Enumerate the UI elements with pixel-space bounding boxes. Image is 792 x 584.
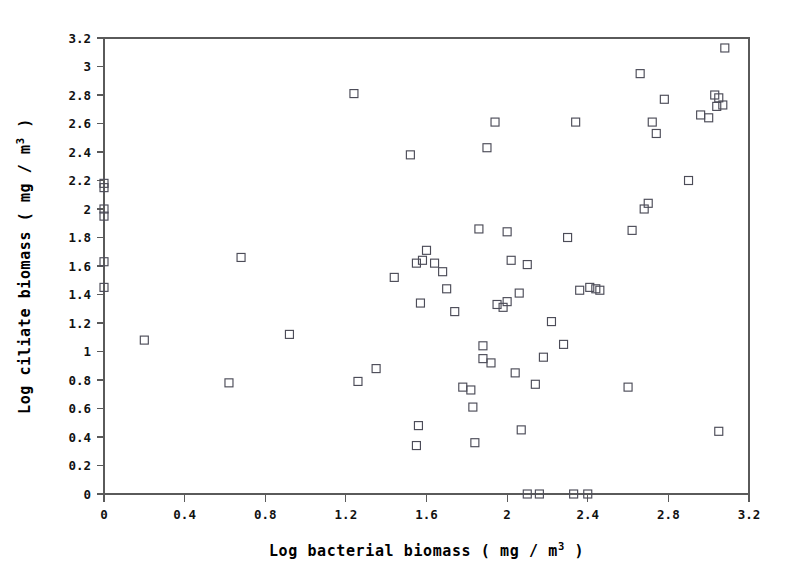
y-tick-label: 2	[83, 202, 91, 217]
data-point	[487, 359, 495, 367]
x-tick-label: 1.2	[335, 507, 358, 522]
data-point	[507, 256, 515, 264]
data-point	[418, 256, 426, 264]
data-point	[660, 95, 668, 103]
data-point	[560, 340, 568, 348]
data-point	[705, 114, 713, 122]
y-tick-label: 0.2	[68, 458, 91, 473]
data-point	[517, 426, 525, 434]
data-point	[697, 111, 705, 119]
x-tick-label: 0.8	[254, 507, 277, 522]
data-point	[350, 90, 358, 98]
data-point	[493, 300, 501, 308]
data-point	[423, 246, 431, 254]
data-point	[451, 308, 459, 316]
x-tick-label: 1.6	[415, 507, 438, 522]
data-point	[479, 342, 487, 350]
data-point	[576, 286, 584, 294]
y-tick-label: 1.8	[68, 230, 91, 245]
data-point	[475, 225, 483, 233]
data-point	[412, 442, 420, 450]
data-point	[416, 299, 424, 307]
data-point	[648, 118, 656, 126]
data-point	[469, 403, 477, 411]
data-point	[624, 383, 632, 391]
x-tick-label: 2.8	[657, 507, 680, 522]
y-tick-label: 0.8	[68, 373, 91, 388]
y-tick-label: 1	[83, 344, 91, 359]
y-axis: 00.20.40.60.811.21.41.61.822.22.42.62.83…	[68, 31, 104, 502]
y-tick-label: 1.6	[68, 259, 91, 274]
data-point	[652, 129, 660, 137]
data-point	[564, 234, 572, 242]
plot-border	[104, 38, 749, 494]
plot-frame	[104, 38, 749, 494]
y-axis-title: Log ciliate biomass ( mg / m3 )	[14, 118, 34, 414]
x-tick-label: 0.4	[173, 507, 196, 522]
y-tick-label: 2.6	[68, 116, 91, 131]
data-point	[572, 118, 580, 126]
y-tick-label: 3.2	[68, 31, 91, 46]
y-tick-label: 3	[83, 59, 91, 74]
scatter-plot-figure: 00.20.40.60.811.21.41.61.822.22.42.62.83…	[0, 0, 792, 584]
data-series-0	[100, 44, 729, 498]
data-point	[685, 177, 693, 185]
data-point	[372, 365, 380, 373]
data-point	[439, 268, 447, 276]
x-axis: 00.40.81.21.622.42.83.2	[100, 494, 760, 522]
x-tick-label: 3.2	[738, 507, 761, 522]
y-tick-label: 2.2	[68, 173, 91, 188]
y-tick-label: 1.4	[68, 287, 91, 302]
x-tick-label: 0	[100, 507, 108, 522]
data-point	[547, 318, 555, 326]
data-point	[467, 386, 475, 394]
data-point	[479, 355, 487, 363]
data-point	[354, 377, 362, 385]
chart-canvas: 00.20.40.60.811.21.41.61.822.22.42.62.83…	[0, 0, 792, 584]
y-tick-label: 2.8	[68, 88, 91, 103]
data-point	[636, 70, 644, 78]
data-point	[511, 369, 519, 377]
data-point	[225, 379, 233, 387]
data-point	[443, 285, 451, 293]
data-point	[523, 261, 531, 269]
y-tick-label: 1.2	[68, 316, 91, 331]
data-point	[412, 259, 420, 267]
axis-spines	[104, 38, 749, 494]
data-point	[715, 427, 723, 435]
data-point	[390, 273, 398, 281]
data-point	[471, 439, 479, 447]
y-tick-label: 0	[83, 487, 91, 502]
data-point	[491, 118, 499, 126]
data-point	[531, 380, 539, 388]
data-point	[406, 151, 414, 159]
data-point	[721, 44, 729, 52]
x-tick-label: 2.4	[576, 507, 599, 522]
y-tick-label: 0.6	[68, 401, 91, 416]
data-point	[459, 383, 467, 391]
data-point	[503, 228, 511, 236]
y-tick-label: 0.4	[68, 430, 91, 445]
y-tick-label: 2.4	[68, 145, 91, 160]
data-point	[539, 353, 547, 361]
data-point	[628, 226, 636, 234]
data-point	[483, 144, 491, 152]
x-tick-label: 2	[503, 507, 511, 522]
data-point	[285, 330, 293, 338]
x-axis-title: Log bacterial biomass ( mg / m3 )	[269, 540, 584, 560]
data-point	[414, 422, 422, 430]
data-point	[515, 289, 523, 297]
data-point	[140, 336, 148, 344]
data-point	[237, 253, 245, 261]
data-point	[431, 259, 439, 267]
